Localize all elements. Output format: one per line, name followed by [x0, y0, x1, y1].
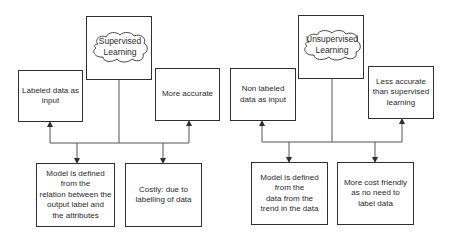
supervised-model-text: Model is defined from the relation betwe… [39, 169, 111, 222]
supervised-accuracy-box: More accurate [155, 68, 220, 121]
supervised-title: Supervised Learning [90, 30, 150, 64]
unsupervised-nonlabeled-input-text: Non labeled data as input [240, 84, 286, 105]
supervised-cost-text: Costly: due to labelling of data [135, 185, 191, 206]
unsupervised-cost-text: More cost friendly as no need to label d… [344, 178, 407, 210]
supervised-labeled-input-box: Labeled data as input [18, 70, 83, 122]
unsupervised-title: Unsupervised Learning [301, 28, 363, 62]
supervised-model-box: Model is defined from the relation betwe… [36, 163, 115, 227]
unsupervised-cloud: Unsupervised Learning [301, 28, 363, 62]
unsupervised-model-box: Model is defined from the data from the … [251, 162, 328, 225]
unsupervised-accuracy-text: Less accurate than supervised learning [373, 77, 429, 109]
unsupervised-accuracy-box: Less accurate than supervised learning [368, 66, 434, 119]
unsupervised-model-text: Model is defined from the data from the … [260, 173, 318, 215]
supervised-cloud: Supervised Learning [90, 30, 150, 64]
unsupervised-cost-box: More cost friendly as no need to label d… [337, 162, 414, 225]
unsupervised-nonlabeled-input-box: Non labeled data as input [230, 68, 296, 121]
supervised-cost-box: Costly: due to labelling of data [125, 163, 202, 227]
supervised-labeled-input-text: Labeled data as input [22, 86, 79, 107]
supervised-accuracy-text: More accurate [162, 89, 213, 100]
